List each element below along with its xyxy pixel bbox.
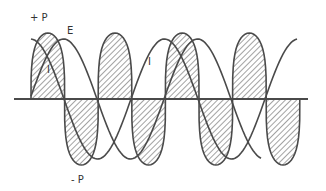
label-i-second: I xyxy=(148,56,151,67)
negative-power-lobe xyxy=(199,99,233,165)
positive-power-lobe xyxy=(98,33,132,99)
negative-power-lobe xyxy=(266,99,300,165)
positive-power-lobe xyxy=(233,33,267,99)
label-minus-p: - P xyxy=(71,174,84,185)
label-plus-p: + P xyxy=(30,12,48,23)
label-i-first: I xyxy=(47,64,50,75)
power-waveform-diagram xyxy=(0,0,326,191)
negative-power-lobe xyxy=(65,99,99,165)
label-e: E xyxy=(67,25,73,36)
